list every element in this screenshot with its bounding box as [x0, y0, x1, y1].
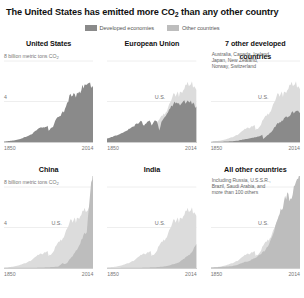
panel-title: All other countries: [211, 163, 300, 176]
y-axis-top-subscript: 2: [56, 54, 58, 59]
x-axis-start-label: 1850: [4, 145, 16, 151]
panel-india: IndiaU.S.18502014: [103, 163, 200, 289]
panel-china: China8 billion metric tons CO24U.S.18502…: [0, 163, 97, 289]
x-axis: 18502014: [211, 142, 300, 155]
panel-title: European Union: [107, 37, 196, 50]
x-axis-end-label: 2014: [82, 271, 94, 277]
panel-title: 7 other developed countries: [211, 37, 300, 50]
x-axis-start-label: 1850: [4, 271, 16, 277]
y-axis-top-label: 8 billion metric tons CO2: [4, 178, 59, 185]
x-axis: 18502014: [211, 268, 300, 281]
legend-label-developed: Developed economies: [100, 25, 154, 31]
panel-7-other-developed-countries: 7 other developed countriesU.S.Australia…: [207, 37, 304, 163]
y-axis-mid-label: 4: [4, 94, 7, 100]
x-axis-end-label: 2014: [185, 145, 197, 151]
x-axis: 18502014: [4, 268, 93, 281]
x-axis-start-label: 1850: [211, 145, 223, 151]
y-axis-mid-label: 4: [4, 220, 7, 226]
legend-label-other: Other countries: [182, 25, 220, 31]
panel-title: India: [107, 163, 196, 176]
y-axis-top-text: 8 billion metric tons CO: [4, 52, 56, 58]
x-axis-end-label: 2014: [288, 145, 300, 151]
us-reference-label: U.S.: [50, 220, 62, 226]
x-axis: 18502014: [4, 142, 93, 155]
country-area: [4, 82, 93, 142]
y-axis-top-subscript: 2: [56, 180, 58, 185]
plot-area: U.S.: [107, 50, 196, 142]
area-chart-svg: [107, 50, 196, 142]
page-title: The United States has emitted more CO2 t…: [0, 0, 304, 20]
us-reference-label: U.S.: [257, 220, 269, 226]
area-chart-svg: [4, 50, 93, 142]
x-axis-start-label: 1850: [107, 145, 119, 151]
area-chart-svg: [4, 176, 93, 268]
x-axis-end-label: 2014: [288, 271, 300, 277]
us-reference-area: [107, 207, 196, 268]
legend: Developed economies Other countries: [0, 25, 304, 31]
us-reference-label: U.S.: [154, 94, 166, 100]
headline-after: than any other country: [179, 7, 279, 17]
panel-grid: United States8 billion metric tons CO241…: [0, 37, 304, 289]
panel-title: China: [4, 163, 93, 176]
plot-area: 8 billion metric tons CO24U.S.: [4, 176, 93, 268]
headline-before: The United States has emitted more CO: [6, 7, 175, 17]
x-axis-start-label: 1850: [107, 271, 119, 277]
x-axis: 18502014: [107, 142, 196, 155]
plot-area: U.S.Australia, Canada, Iceland, Japan, N…: [211, 50, 300, 142]
panel-united-states: United States8 billion metric tons CO241…: [0, 37, 97, 163]
us-reference-label: U.S.: [154, 220, 166, 226]
chart-page: The United States has emitted more CO2 t…: [0, 0, 304, 298]
plot-area: U.S.: [107, 176, 196, 268]
country-area: [107, 100, 196, 142]
x-axis-start-label: 1850: [211, 271, 223, 277]
x-axis: 18502014: [107, 268, 196, 281]
panel-members-note: Including Russia, U.S.S.R., Brazil, Saud…: [212, 177, 274, 196]
y-axis-top-text: 8 billion metric tons CO: [4, 178, 56, 184]
legend-item-other: Other countries: [167, 25, 220, 31]
panel-title: United States: [4, 37, 93, 50]
legend-swatch-other: [167, 25, 179, 31]
panel-all-other-countries: All other countriesU.S.Including Russia,…: [207, 163, 304, 289]
plot-area: U.S.Including Russia, U.S.S.R., Brazil, …: [211, 176, 300, 268]
legend-item-developed: Developed economies: [85, 25, 154, 31]
x-axis-end-label: 2014: [185, 271, 197, 277]
x-axis-end-label: 2014: [82, 145, 94, 151]
panel-european-union: European UnionU.S.18502014: [103, 37, 200, 163]
panel-members-note: Australia, Canada, Iceland, Japan, New Z…: [212, 51, 274, 70]
y-axis-top-label: 8 billion metric tons CO2: [4, 52, 59, 59]
legend-swatch-developed: [85, 25, 97, 31]
area-chart-svg: [107, 176, 196, 268]
us-reference-label: U.S.: [257, 94, 269, 100]
plot-area: 8 billion metric tons CO24: [4, 50, 93, 142]
